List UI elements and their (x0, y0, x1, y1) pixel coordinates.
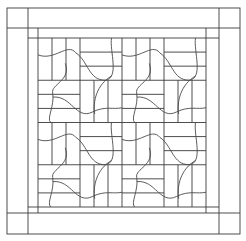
quilting-curve (122, 50, 189, 81)
quilting-curve (53, 97, 122, 114)
quilting-curve (137, 182, 206, 199)
quilting-curve (105, 38, 113, 80)
quilting-curve (105, 123, 113, 165)
quilting-curve (53, 182, 122, 199)
quilting-curve (38, 134, 105, 165)
quilting-curve (189, 38, 197, 80)
quilting-curve (38, 50, 105, 81)
quilting-curve (189, 123, 197, 165)
quilting-curve (137, 97, 206, 114)
quilting-curve (122, 134, 189, 165)
quilt-diagram (0, 0, 246, 241)
outer-border (7, 8, 240, 234)
